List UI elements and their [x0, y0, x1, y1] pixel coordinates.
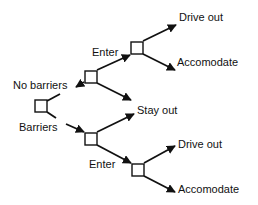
edge-root-to-no-barriers [76, 82, 84, 87]
edge-enter-bottom-to-drive-out [144, 146, 175, 163]
label-drive-out-top: Drive out [179, 11, 223, 23]
label-accomodate-bottom: Accomodate [178, 183, 239, 195]
label-drive-out-bottom: Drive out [178, 138, 222, 150]
edge-barriers-to-stay-out [97, 114, 134, 132]
decision-tree-diagram: No barriers Barriers Enter Enter Stay ou… [0, 0, 258, 205]
edge-enter-top-to-drive-out [143, 25, 176, 41]
edge-enter-bottom-to-accomodate [144, 176, 175, 192]
decision-node-no-barriers-enter [131, 42, 143, 54]
label-stay-out: Stay out [137, 104, 177, 116]
label-accomodate-top: Accomodate [177, 56, 238, 68]
label-enter-top: Enter [92, 46, 119, 58]
edge-root-to-barriers-stub [47, 112, 56, 118]
decision-node-no-barriers [85, 71, 97, 83]
label-no-barriers: No barriers [13, 79, 68, 91]
decision-node-barriers-enter [132, 164, 144, 176]
label-enter-bottom: Enter [89, 158, 116, 170]
edge-no-barriers-to-stay-out [97, 83, 131, 100]
edge-enter-top-to-accomodate [143, 54, 175, 70]
decision-node-root [35, 100, 47, 112]
decision-node-barriers [85, 133, 97, 145]
edge-root-to-no-barriers-stub [47, 94, 60, 101]
edge-root-to-barriers [66, 124, 84, 132]
label-barriers: Barriers [19, 121, 58, 133]
